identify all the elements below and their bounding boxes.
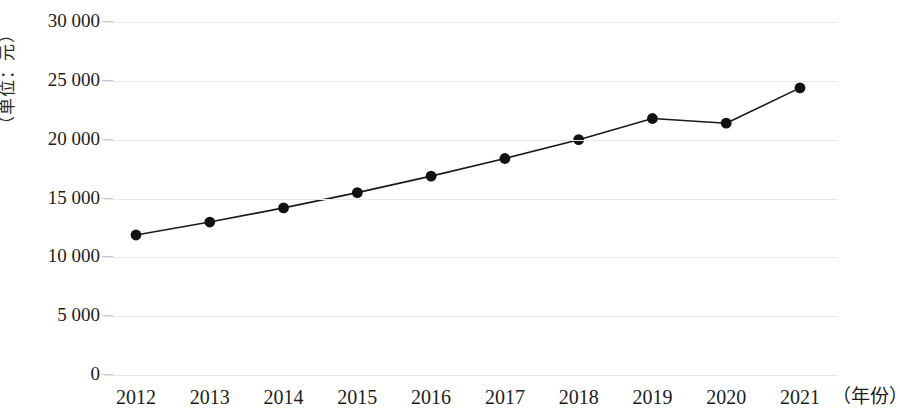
x-axis-tick-label: 2014 (264, 380, 304, 414)
x-axis-tick-label: 2021 (780, 380, 820, 414)
x-axis-tick-label: 2016 (411, 380, 451, 414)
data-point (204, 217, 215, 228)
gridline (104, 199, 838, 200)
x-axis-unit-caption: （年份） (832, 380, 900, 414)
y-axis-unit-caption: （单位：元） (0, 0, 16, 4)
gridline (104, 81, 838, 82)
y-axis-tick-label: 0 (91, 364, 101, 383)
y-axis-tick-label: 20 000 (48, 129, 100, 148)
x-axis-tick-label: 2017 (485, 380, 525, 414)
y-axis-tick-label: 5 000 (57, 305, 100, 324)
gridline (104, 22, 838, 23)
x-axis-tick-label: 2012 (116, 380, 156, 414)
data-point (795, 82, 806, 93)
gridline (104, 316, 838, 317)
data-series-line (104, 0, 838, 392)
data-point (352, 187, 363, 198)
gridline (104, 140, 838, 141)
data-point (426, 171, 437, 182)
data-point (647, 113, 658, 124)
x-axis-tick-label: 2019 (632, 380, 672, 414)
y-axis-tick-label: 30 000 (48, 11, 100, 30)
data-point (499, 153, 510, 164)
y-axis-tick-label: 10 000 (48, 246, 100, 265)
x-axis: 2012201320142015201620172018201920202021… (104, 380, 887, 414)
x-axis-tick-label: 2013 (190, 380, 230, 414)
x-axis-tick-label: 2015 (337, 380, 377, 414)
x-axis-tick-label: 2020 (706, 380, 746, 414)
plot-area (104, 0, 838, 392)
y-axis-tick-label: 25 000 (48, 70, 100, 89)
data-point (278, 203, 289, 214)
data-point (721, 118, 732, 129)
gridline (104, 257, 838, 258)
x-axis-tick-label: 2018 (559, 380, 599, 414)
y-axis-tick-label: 15 000 (48, 188, 100, 207)
series-polyline (136, 88, 800, 235)
y-axis: 05 00010 00015 00020 00025 00030 000 (28, 0, 100, 414)
y-axis-unit-caption-text: （单位：元） (0, 4, 16, 154)
gridline (104, 375, 838, 376)
series-markers (131, 82, 806, 240)
data-point (131, 230, 142, 241)
